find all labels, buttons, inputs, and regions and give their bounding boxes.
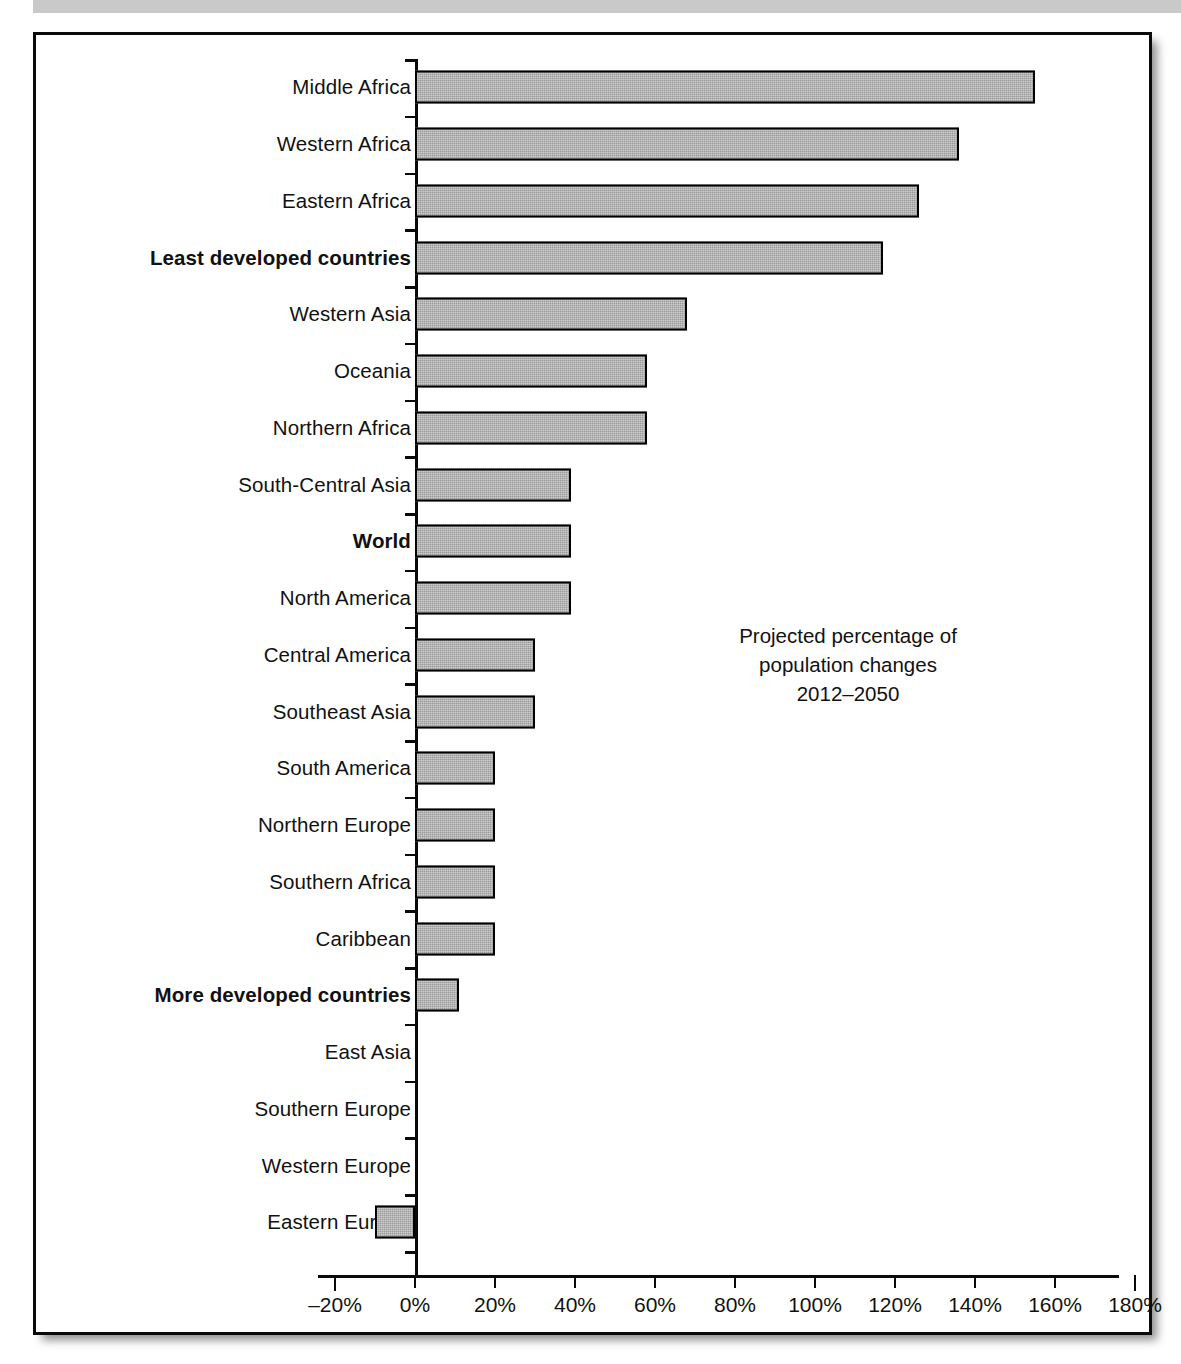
bar-track — [36, 1194, 1155, 1251]
bar-row: Western Africa — [36, 116, 1155, 173]
bar[interactable] — [415, 411, 647, 444]
bar[interactable] — [415, 809, 495, 842]
x-tick-label: 40% — [554, 1293, 596, 1317]
bar-row: Southern Europe — [36, 1081, 1155, 1138]
y-tick — [405, 1081, 417, 1084]
bar[interactable] — [415, 865, 495, 898]
annotation-line-2: population changes — [688, 650, 1008, 679]
x-tick — [974, 1275, 977, 1288]
bar[interactable] — [415, 128, 959, 161]
bar-row: World — [36, 513, 1155, 570]
y-tick — [405, 173, 417, 176]
x-tick — [814, 1275, 817, 1288]
bar[interactable] — [415, 525, 571, 558]
bar[interactable] — [415, 355, 647, 388]
x-tick-label: 160% — [1028, 1293, 1082, 1317]
y-tick — [405, 683, 417, 686]
y-tick — [405, 910, 417, 913]
bar-track — [36, 1137, 1155, 1194]
chart-annotation: Projected percentage of population chang… — [688, 621, 1008, 708]
bar[interactable] — [415, 582, 571, 615]
bar-chart-plot: Middle AfricaWestern AfricaEastern Afric… — [36, 35, 1155, 1338]
x-tick — [494, 1275, 497, 1288]
y-tick — [405, 513, 417, 516]
bar-row: More developed countries — [36, 967, 1155, 1024]
screenshot-page: Middle AfricaWestern AfricaEastern Afric… — [0, 0, 1181, 1364]
y-tick — [405, 740, 417, 743]
y-tick — [405, 967, 417, 970]
x-tick-label: –20% — [308, 1293, 362, 1317]
y-tick — [405, 570, 417, 573]
bar[interactable] — [415, 922, 495, 955]
x-tick-label: 180% — [1108, 1293, 1162, 1317]
bar-track — [36, 173, 1155, 230]
bar[interactable] — [415, 241, 883, 274]
bar-track — [36, 910, 1155, 967]
bar-track — [36, 456, 1155, 513]
bar-row: Oceania — [36, 343, 1155, 400]
bar-track — [36, 740, 1155, 797]
bar-track — [36, 116, 1155, 173]
x-tick-label: 20% — [474, 1293, 516, 1317]
bar[interactable] — [415, 752, 495, 785]
bar-track — [36, 400, 1155, 457]
figure-frame: Middle AfricaWestern AfricaEastern Afric… — [33, 32, 1152, 1335]
y-tick — [405, 116, 417, 119]
bar-track — [36, 513, 1155, 570]
bar-row: Eastern Europe — [36, 1194, 1155, 1251]
x-tick — [654, 1275, 657, 1288]
y-tick — [405, 59, 417, 62]
bar-track — [36, 967, 1155, 1024]
bar-row: South America — [36, 740, 1155, 797]
y-tick — [405, 1024, 417, 1027]
annotation-line-1: Projected percentage of — [688, 621, 1008, 650]
bar-row: Caribbean — [36, 910, 1155, 967]
bar[interactable] — [415, 298, 687, 331]
bar[interactable] — [415, 638, 535, 671]
bar-row: Western Asia — [36, 286, 1155, 343]
bar[interactable] — [415, 468, 571, 501]
bar-row: Northern Africa — [36, 400, 1155, 457]
bar-row: North America — [36, 570, 1155, 627]
y-tick — [405, 456, 417, 459]
x-tick — [1054, 1275, 1057, 1288]
y-tick — [405, 343, 417, 346]
x-tick-label: 60% — [634, 1293, 676, 1317]
bar-row: Northern Europe — [36, 797, 1155, 854]
x-tick — [574, 1275, 577, 1288]
bar-row: East Asia — [36, 1024, 1155, 1081]
bar[interactable] — [415, 979, 459, 1012]
bar-track — [36, 1081, 1155, 1138]
bar-row: Eastern Africa — [36, 173, 1155, 230]
x-tick — [894, 1275, 897, 1288]
bar-row: Middle Africa — [36, 59, 1155, 116]
bar-row: Southern Africa — [36, 854, 1155, 911]
bar-track — [36, 229, 1155, 286]
bar-row: Western Europe — [36, 1137, 1155, 1194]
bar-track — [36, 1024, 1155, 1081]
x-tick — [414, 1275, 417, 1288]
x-axis-line — [318, 1275, 1119, 1278]
x-tick-label: 0% — [400, 1293, 430, 1317]
bar[interactable] — [375, 1206, 415, 1239]
annotation-line-3: 2012–2050 — [688, 679, 1008, 708]
y-tick — [405, 400, 417, 403]
bar[interactable] — [415, 71, 1035, 104]
bar[interactable] — [415, 695, 535, 728]
x-tick-label: 100% — [788, 1293, 842, 1317]
x-tick — [334, 1275, 337, 1291]
y-tick — [405, 854, 417, 857]
y-tick — [405, 797, 417, 800]
bar-track — [36, 343, 1155, 400]
y-tick — [405, 1194, 417, 1197]
y-tick — [405, 1251, 417, 1254]
bar-track — [36, 854, 1155, 911]
x-tick-label: 140% — [948, 1293, 1002, 1317]
y-tick — [405, 627, 417, 630]
bar[interactable] — [415, 184, 919, 217]
x-tick — [1134, 1275, 1137, 1291]
bar-track — [36, 797, 1155, 854]
y-tick — [405, 1137, 417, 1140]
x-tick-label: 80% — [714, 1293, 756, 1317]
x-tick-label: 120% — [868, 1293, 922, 1317]
